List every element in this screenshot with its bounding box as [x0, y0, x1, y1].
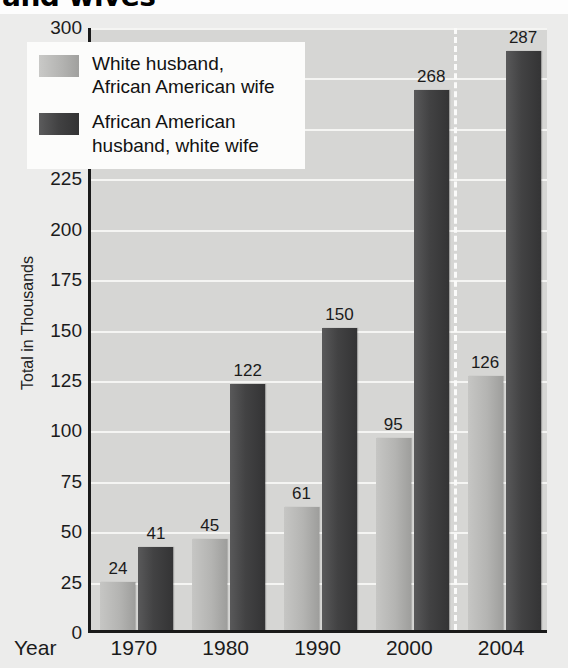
x-axis: Year 19701980199020002004: [0, 636, 568, 668]
y-tick-label: 175: [30, 269, 82, 291]
bar-value-label: 41: [146, 524, 165, 544]
period-divider: [454, 28, 457, 630]
legend-label-african-american-husband: African American husband, white wife: [92, 110, 259, 156]
y-tick-label: 150: [30, 320, 82, 342]
legend-swatch-dark: [39, 113, 79, 135]
bar-2000-series1: 95: [376, 438, 411, 630]
chart-figure: Total in Thousands 300275250225200175150…: [0, 14, 568, 668]
x-tick-label-1970: 1970: [111, 636, 158, 660]
legend-label-line1: African American: [92, 111, 236, 132]
y-tick-label: 125: [30, 370, 82, 392]
page-title: and wives: [2, 0, 156, 13]
bar-value-label: 268: [417, 67, 445, 87]
gridline: [91, 230, 547, 232]
bar-value-label: 61: [292, 484, 311, 504]
legend-item-african-american-husband: African American husband, white wife: [39, 110, 291, 156]
y-tick-label: 50: [30, 521, 82, 543]
y-tick-label: 225: [30, 168, 82, 190]
bar-value-label: 24: [108, 559, 127, 579]
bar-1980-series2: 122: [230, 384, 265, 630]
y-tick-label: 200: [30, 219, 82, 241]
legend-label-white-husband: White husband, African American wife: [92, 52, 275, 98]
x-tick-label-1990: 1990: [294, 636, 341, 660]
y-tick-label: 25: [30, 572, 82, 594]
bar-value-label: 150: [325, 305, 353, 325]
x-tick-label-2000: 2000: [386, 636, 433, 660]
bar-2004-series1: 126: [468, 376, 503, 630]
y-tick-label: 300: [30, 17, 82, 39]
bar-value-label: 122: [234, 361, 262, 381]
legend-label-line2: husband, white wife: [92, 135, 259, 156]
legend-label-line2: African American wife: [92, 76, 275, 97]
gridline: [91, 179, 547, 181]
x-axis-title: Year: [14, 636, 56, 660]
bar-1990-series2: 150: [322, 328, 357, 631]
y-tick-label: 75: [30, 471, 82, 493]
gridline: [91, 331, 547, 333]
bar-value-label: 126: [471, 353, 499, 373]
bar-2004-series2: 287: [506, 51, 541, 630]
legend-swatch-light: [39, 55, 79, 77]
bar-2000-series2: 268: [414, 90, 449, 630]
bar-value-label: 95: [384, 415, 403, 435]
bar-1990-series1: 61: [284, 507, 319, 630]
page-title-strip: and wives: [0, 0, 568, 14]
bar-value-label: 45: [200, 516, 219, 536]
bar-1970-series1: 24: [100, 582, 135, 630]
x-tick-label-2004: 2004: [478, 636, 525, 660]
chart-legend: White husband, African American wife Afr…: [27, 42, 305, 169]
legend-item-white-husband: White husband, African American wife: [39, 52, 291, 98]
gridline: [91, 28, 547, 30]
legend-label-line1: White husband,: [92, 53, 224, 74]
bar-1980-series1: 45: [192, 539, 227, 630]
bar-value-label: 287: [509, 28, 537, 48]
bar-1970-series2: 41: [138, 547, 173, 630]
gridline: [91, 280, 547, 282]
y-tick-label: 100: [30, 420, 82, 442]
x-tick-label-1980: 1980: [202, 636, 249, 660]
